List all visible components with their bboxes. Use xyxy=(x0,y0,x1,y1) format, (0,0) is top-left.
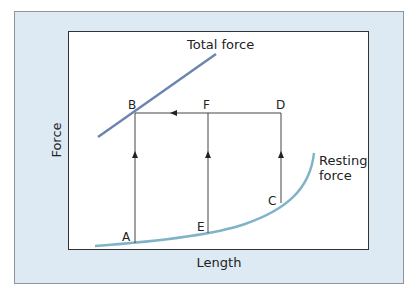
resting-force-label-line2: force xyxy=(319,168,352,183)
x-axis-label: Length xyxy=(197,255,242,270)
point-label-a: A xyxy=(122,230,131,244)
arrowhead-up-icon xyxy=(278,151,284,158)
total-force-label: Total force xyxy=(186,37,254,52)
arrowhead-up-icon xyxy=(132,151,138,158)
y-axis-label: Force xyxy=(49,122,64,157)
arrowhead-left-icon xyxy=(170,110,177,116)
point-label-c: C xyxy=(268,194,276,208)
point-label-d: D xyxy=(276,98,285,112)
point-label-e: E xyxy=(197,220,205,234)
resting-force-label-line1: Resting xyxy=(319,153,367,168)
total-force-line xyxy=(98,54,216,137)
diagram-canvas: Total force Resting force B F D A E C Le… xyxy=(0,0,420,302)
point-label-f: F xyxy=(203,98,210,112)
point-label-b: B xyxy=(128,98,136,112)
arrowhead-up-icon xyxy=(205,151,211,158)
